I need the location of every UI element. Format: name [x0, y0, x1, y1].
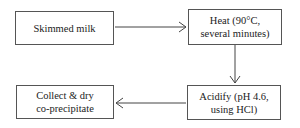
node-collect-dry: Collect & dry co-precipitate	[16, 85, 114, 119]
node-heat: Heat (90°C, several minutes)	[188, 9, 282, 45]
arrow-milk-to-heat	[115, 22, 186, 32]
node-acidify: Acidify (pH 4.6, using HCl)	[187, 85, 281, 120]
node-skimmed-milk: Skimmed milk	[15, 11, 114, 45]
arrow-acidify-to-collect	[116, 98, 186, 108]
arrow-heat-to-acidify	[230, 45, 240, 83]
